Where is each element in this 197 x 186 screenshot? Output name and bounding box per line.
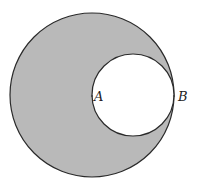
geometry-diagram: A B (0, 0, 197, 186)
point-b-marker (173, 95, 175, 97)
point-a-label: A (93, 89, 103, 104)
point-a-marker (91, 95, 93, 97)
small-circle (92, 54, 174, 136)
point-b-label: B (177, 89, 188, 104)
